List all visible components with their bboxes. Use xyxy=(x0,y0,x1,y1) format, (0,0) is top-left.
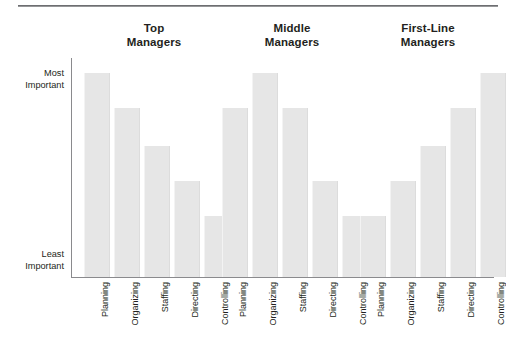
category-label-first-line-managers-controlling: Controlling xyxy=(497,282,506,325)
category-label-middle-managers-planning: Planning xyxy=(239,282,248,317)
category-label-middle-managers-directing: Directing xyxy=(329,282,338,318)
category-label-top-managers-planning: Planning xyxy=(101,282,110,317)
bar-top-managers-staffing xyxy=(144,146,170,277)
bar-middle-managers-directing xyxy=(312,181,338,277)
y-axis-label-most-important: Most Important xyxy=(0,68,64,91)
category-label-top-managers-directing: Directing xyxy=(191,282,200,318)
bar-middle-managers-planning xyxy=(222,108,248,277)
y-axis-label-line-2: Important xyxy=(0,261,64,273)
group-title-first-line-managers: First-Line Managers xyxy=(358,22,498,49)
category-label-top-managers-controlling: Controlling xyxy=(221,282,230,325)
category-label-first-line-managers-directing: Directing xyxy=(467,282,476,318)
category-label-top-managers-staffing: Staffing xyxy=(161,282,170,312)
bar-first-line-managers-planning xyxy=(360,216,386,277)
category-label-middle-managers-controlling: Controlling xyxy=(359,282,368,325)
x-axis-line xyxy=(71,277,494,278)
group-title-line-1: Top xyxy=(84,22,224,36)
group-title-line-2: Managers xyxy=(84,36,224,50)
group-title-line-1: Middle xyxy=(222,22,362,36)
bar-first-line-managers-organizing xyxy=(390,181,416,277)
y-axis-label-line-1: Most xyxy=(0,68,64,80)
bar-middle-managers-staffing xyxy=(282,108,308,277)
bar-top-managers-planning xyxy=(84,73,110,277)
group-title-line-1: First-Line xyxy=(358,22,498,36)
group-title-line-2: Managers xyxy=(358,36,498,50)
category-label-first-line-managers-staffing: Staffing xyxy=(437,282,446,312)
category-label-first-line-managers-organizing: Organizing xyxy=(407,282,416,326)
top-divider-rule xyxy=(18,5,498,7)
bar-top-managers-organizing xyxy=(114,108,140,277)
category-label-middle-managers-staffing: Staffing xyxy=(299,282,308,312)
category-label-first-line-managers-planning: Planning xyxy=(377,282,386,317)
group-title-top-managers: Top Managers xyxy=(84,22,224,49)
group-title-middle-managers: Middle Managers xyxy=(222,22,362,49)
y-axis-label-line-2: Important xyxy=(0,80,64,92)
bar-first-line-managers-controlling xyxy=(480,73,506,277)
y-axis-label-least-important: Least Important xyxy=(0,249,64,272)
bar-middle-managers-organizing xyxy=(252,73,278,277)
category-label-top-managers-organizing: Organizing xyxy=(131,282,140,326)
category-label-middle-managers-organizing: Organizing xyxy=(269,282,278,326)
plot-area xyxy=(72,58,494,277)
bar-first-line-managers-directing xyxy=(450,108,476,277)
group-title-line-2: Managers xyxy=(222,36,362,50)
y-axis-label-line-1: Least xyxy=(0,249,64,261)
bar-top-managers-directing xyxy=(174,181,200,277)
bar-first-line-managers-staffing xyxy=(420,146,446,277)
